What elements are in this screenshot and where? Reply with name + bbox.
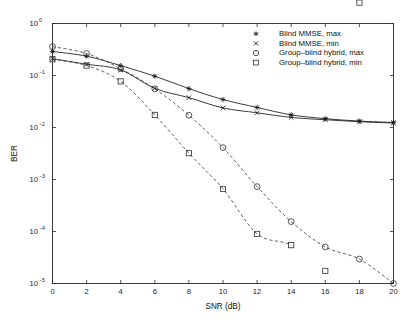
x-tick-label: 16	[321, 287, 329, 296]
series-line	[53, 59, 292, 245]
data-point-marker-star	[220, 97, 225, 102]
data-series-layer	[50, 0, 397, 286]
x-tick-label: 4	[119, 287, 123, 296]
data-point-marker-star	[357, 118, 362, 123]
legend-item-blind-mmse-min[interactable]: Blind MMSE, min	[254, 39, 339, 48]
svg-text:10: 10	[30, 227, 38, 236]
data-point-marker-x	[254, 41, 258, 45]
y-axis-label: BER	[10, 145, 19, 162]
chart-figure: 02468101214161820 10010−110−210−310−410−…	[0, 0, 416, 319]
y-tick-label: 10−2	[30, 121, 46, 132]
y-tick-label: 10−4	[30, 225, 46, 236]
svg-text:−3: −3	[39, 173, 45, 179]
x-tick-label: 6	[153, 287, 157, 296]
data-point-marker-circle	[322, 244, 328, 250]
legend-item-label: Group–blind hybrid, min	[279, 58, 362, 67]
legend-item-group-blind-hybrid-min[interactable]: Group–blind hybrid, min	[254, 58, 362, 67]
x-axis-tick-labels: 02468101214161820	[50, 287, 397, 296]
ber-vs-snr-plot: 02468101214161820 10010−110−210−310−410−…	[0, 0, 416, 319]
chart-legend: Blind MMSE, maxBlind MMSE, minGroup–blin…	[245, 28, 391, 72]
series-line	[53, 47, 394, 284]
legend-item-label: Group–blind hybrid, max	[279, 48, 364, 57]
legend-item-label: Blind MMSE, min	[279, 39, 339, 48]
svg-text:10: 10	[30, 19, 38, 28]
data-point-marker-circle	[253, 50, 258, 55]
legend-item-blind-mmse-max[interactable]: Blind MMSE, max	[254, 29, 341, 38]
x-axis-label: SNR (dB)	[205, 302, 240, 311]
data-point-marker-star	[152, 74, 157, 79]
svg-text:10: 10	[30, 279, 38, 288]
x-tick-label: 8	[187, 287, 191, 296]
x-tick-label: 2	[84, 287, 88, 296]
series-line	[53, 59, 394, 123]
y-tick-label: 10−3	[30, 173, 46, 184]
y-tick-label: 100	[30, 17, 42, 28]
data-point-marker-square	[323, 268, 328, 273]
svg-text:−2: −2	[39, 121, 45, 127]
data-point-marker-x	[187, 95, 192, 100]
data-point-marker-square	[254, 60, 259, 65]
data-point-marker-star	[254, 31, 259, 36]
data-point-marker-star	[323, 116, 328, 121]
svg-text:0: 0	[39, 17, 42, 23]
legend-item-group-blind-hybrid-max[interactable]: Group–blind hybrid, max	[253, 48, 364, 57]
legend-item-label: Blind MMSE, max	[279, 29, 341, 38]
x-tick-label: 12	[253, 287, 261, 296]
y-tick-label: 10−1	[30, 69, 46, 80]
svg-text:−1: −1	[39, 69, 45, 75]
svg-text:−4: −4	[39, 225, 45, 231]
x-tick-label: 20	[389, 287, 397, 296]
data-point-marker-star	[186, 86, 191, 91]
data-point-marker-star	[289, 112, 294, 117]
svg-text:10: 10	[30, 71, 38, 80]
series-group-blind-hybrid-max	[50, 44, 397, 287]
data-point-marker-square	[357, 0, 362, 5]
svg-text:−5: −5	[39, 277, 45, 283]
x-tick-label: 10	[219, 287, 227, 296]
x-tick-label: 14	[287, 287, 295, 296]
svg-text:10: 10	[30, 175, 38, 184]
x-tick-label: 0	[50, 287, 54, 296]
x-tick-label: 18	[355, 287, 363, 296]
y-axis-tick-labels: 10010−110−210−310−410−5	[30, 17, 46, 288]
data-point-marker-circle	[186, 112, 192, 118]
data-point-marker-star	[255, 105, 260, 110]
svg-text:10: 10	[30, 123, 38, 132]
y-tick-label: 10−5	[30, 277, 46, 288]
